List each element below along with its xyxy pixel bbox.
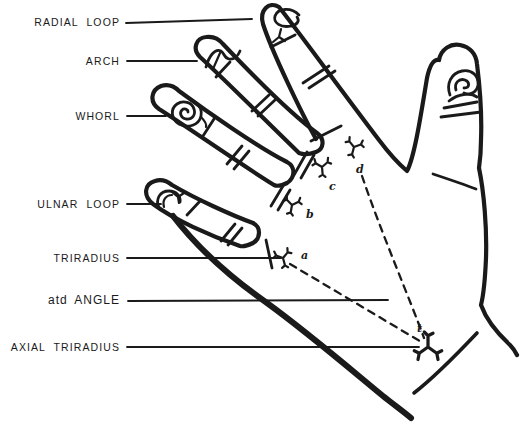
hand-dermatoglyphics-figure: a b c d t RADIAL LOOP ARCH WHORL ULNAR L… [0,0,521,429]
label-atd-angle: atd ANGLE [0,294,120,307]
ring-finger-outline [152,85,293,186]
point-letter-d: d [356,163,364,176]
pinky-finger-outline [146,180,259,246]
triradius-c-mark [312,158,332,178]
point-letter-a: a [301,249,308,262]
thumb-pattern [441,71,481,117]
ulnar-loop-pattern [158,191,184,208]
middle-finger-outline [196,37,323,154]
label-triradius: TRIRADIUS [0,252,120,265]
point-letter-t: t [417,322,422,335]
label-radial-loop: RADIAL LOOP [0,16,120,29]
label-ulnar-loop: ULNAR LOOP [0,198,120,211]
axial-triradius-mark [414,332,442,360]
label-whorl: WHORL [0,110,120,123]
index-finger-outline [262,5,439,171]
point-letter-c: c [329,180,336,193]
atd-angle-lines [290,176,424,343]
wrist-crease [414,333,477,393]
dashed-line-a-to-t [290,264,423,343]
palm-crease-marks [266,126,476,268]
point-letters: a b c d t [301,163,422,335]
label-axial-triradius: AXIAL TRIRADIUS [0,341,120,354]
dashed-line-d-to-t [362,176,424,338]
label-arch: ARCH [0,55,120,68]
leader-radial-loop [126,19,252,23]
point-letter-b: b [306,208,314,221]
triradius-d-mark [342,136,365,159]
thumb-and-palm-right-edge [439,45,517,355]
palm-ulnar-edge [173,216,411,418]
